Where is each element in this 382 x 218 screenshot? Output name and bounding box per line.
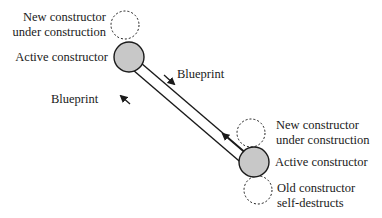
bottom-new-constructor-label: New constructor under construction bbox=[276, 118, 369, 148]
bottom-new-constructor-circle bbox=[237, 119, 265, 147]
bottom-old-label-line1: Old constructor bbox=[277, 181, 355, 196]
top-new-label-line1: New constructor bbox=[6, 10, 106, 25]
top-new-label-line2: under construction bbox=[6, 25, 106, 40]
top-new-constructor-label: New constructor under construction bbox=[6, 10, 106, 40]
bottom-old-label-line2: self-destructs bbox=[277, 196, 355, 211]
top-new-constructor-circle bbox=[111, 11, 139, 39]
blueprint-up-arrow-icon bbox=[121, 96, 130, 104]
bottom-new-label-line1: New constructor bbox=[276, 118, 369, 133]
top-active-constructor-label: Active constructor bbox=[6, 50, 108, 65]
top-active-constructor-circle bbox=[114, 42, 144, 72]
blueprint-up-label: Blueprint bbox=[51, 92, 98, 107]
blueprint-down-label: Blueprint bbox=[177, 67, 224, 82]
bottom-new-label-line2: under construction bbox=[276, 133, 369, 148]
bottom-active-constructor-label: Active constructor bbox=[275, 155, 368, 170]
bottom-old-constructor-circle bbox=[244, 176, 272, 204]
bottom-old-constructor-label: Old constructor self-destructs bbox=[277, 181, 355, 211]
blueprint-down-arrow-icon bbox=[164, 75, 174, 84]
